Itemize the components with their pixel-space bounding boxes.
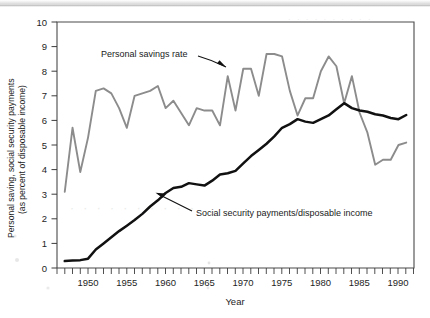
annotation-arrowhead-savings	[217, 60, 226, 67]
x-tick-label-1980: 1980	[310, 277, 331, 288]
annotation-personal-savings-rate: Personal savings rate	[101, 49, 226, 67]
y-tick-label-8: 8	[42, 66, 47, 77]
y-tick-group	[52, 22, 58, 268]
annotation-label-social-security: Social security payments/disposable inco…	[196, 208, 373, 218]
x-axis: 1950 1955 1960 1965 1970 1975 1980 1985 …	[57, 268, 414, 288]
x-tick-label-1970: 1970	[232, 277, 253, 288]
y-tick-label-2: 2	[42, 213, 47, 224]
annotation-label-savings: Personal savings rate	[101, 49, 188, 59]
y-tick-label-10: 10	[36, 17, 47, 28]
x-tick-label-1975: 1975	[271, 277, 292, 288]
x-tick-label-1955: 1955	[116, 277, 137, 288]
x-axis-title: Year	[225, 296, 244, 307]
y-tick-label-4: 4	[42, 164, 47, 175]
series-line-social-security-payments	[65, 103, 406, 261]
svg-text:· · · · · · · · · ·: · · · · · · · · · ·	[288, 15, 373, 24]
x-minor-ticks	[57, 268, 414, 274]
y-axis: 0 1 2 3 4 5 6 7 8 9 10	[36, 17, 57, 274]
y-axis-title-line2: (as percent of disposable income)	[17, 85, 27, 214]
scan-watermark: · · · · · · · · · · · · · · · · · · · ·	[13, 15, 372, 290]
x-tick-label-1985: 1985	[349, 277, 370, 288]
y-axis-title: Personal saving, social security payment…	[6, 78, 27, 238]
y-tick-label-0: 0	[42, 263, 47, 274]
y-tick-label-3: 3	[42, 189, 47, 200]
svg-text:· · · · · · · · · ·: · · · · · · · · · ·	[70, 201, 197, 215]
x-tick-label-1960: 1960	[155, 277, 176, 288]
y-tick-label-7: 7	[42, 90, 47, 101]
chart-figure: · · · · · · · · · · · · · · · · · · · ·	[0, 0, 430, 318]
chart-svg: · · · · · · · · · · · · · · · · · · · ·	[0, 0, 430, 318]
x-tick-label-1990: 1990	[387, 277, 408, 288]
y-tick-label-6: 6	[42, 115, 47, 126]
x-tick-label-1950: 1950	[77, 277, 98, 288]
y-tick-label-9: 9	[42, 41, 47, 52]
y-axis-title-line1: Personal saving, social security payment…	[6, 78, 16, 238]
x-tick-label-1965: 1965	[194, 277, 215, 288]
y-tick-label-5: 5	[42, 140, 47, 151]
y-tick-label-1: 1	[42, 238, 47, 249]
